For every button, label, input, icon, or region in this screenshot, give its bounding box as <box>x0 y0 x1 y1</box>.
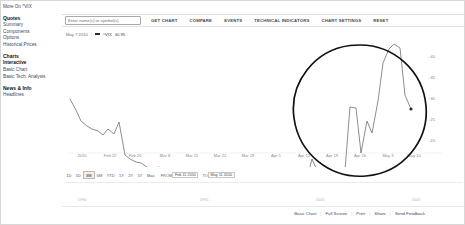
minimap-label-2: 2000 <box>316 197 325 202</box>
compare-button[interactable]: COMPARE <box>183 18 218 23</box>
range-option-max[interactable]: Max <box>145 173 157 178</box>
x-tick-label-8: Apr 12 <box>298 153 310 158</box>
range-option-1y[interactable]: 1Y <box>117 173 126 178</box>
sidebar-item-headlines[interactable]: Headlines <box>3 92 59 99</box>
range-selector: 1D 5D 3M 6M YTD 1Y 2Y 5Y Max FROM Feb 11… <box>62 170 465 180</box>
minimap-label-0: 1990 <box>78 197 87 202</box>
sidebar-item-basic-tech-analysis[interactable]: Basic Tech. Analysis <box>3 74 59 81</box>
minimap-label-1: 1995 <box>200 197 209 202</box>
sidebar-item-components[interactable]: Components <box>3 29 59 36</box>
sidebar-heading-charts: Charts <box>3 53 59 60</box>
sidebar-group-news: News & Info Headlines <box>3 85 59 99</box>
x-tick-label-6: Mar 29 <box>242 153 255 158</box>
quote-divider: | <box>91 32 92 37</box>
sidebar-item-summary[interactable]: Summary <box>3 22 59 29</box>
x-tick-label-1: Feb 22 <box>104 153 117 158</box>
x-tick-label-9: Apr 19 <box>326 153 338 158</box>
x-tick-label-3: Mar 8 <box>160 153 170 158</box>
x-tick-label-7: Apr 5 <box>271 153 281 158</box>
chart-minimap[interactable]: 1990 1995 2000 2005 <box>64 182 463 206</box>
quote-symbol: ^VIX <box>103 32 112 37</box>
more-on-label: More On ^VIX <box>3 4 59 9</box>
sidebar-item-basic-chart[interactable]: Basic Chart <box>3 67 59 74</box>
price-chart[interactable]: 40 35 30 25 20 <box>62 41 465 167</box>
vix-line-series <box>70 44 411 167</box>
sidebar-item-interactive[interactable]: Interactive <box>3 60 59 67</box>
x-tick-label-11: May 3 <box>382 153 393 158</box>
reset-button[interactable]: RESET <box>367 18 394 23</box>
range-option-3m[interactable]: 3M <box>83 171 95 179</box>
y-tick-label-30: 30 <box>430 96 435 101</box>
chart-toolbar: GET CHART COMPARE EVENTS TECHNICAL INDIC… <box>62 14 465 27</box>
footer-link-basic-chart[interactable]: Basic Chart <box>290 211 320 216</box>
sidebar-heading-quotes: Quotes <box>3 15 59 22</box>
quote-value: 40.95 <box>115 32 125 37</box>
sidebar-item-options[interactable]: Options <box>3 35 59 42</box>
sidebar-group-quotes: Quotes Summary Components Options Histor… <box>3 15 59 48</box>
sidebar-heading-news-info: News & Info <box>3 85 59 92</box>
technical-indicators-button[interactable]: TECHNICAL INDICATORS <box>248 18 315 23</box>
x-tick-label-2: Feb 26 <box>129 153 142 158</box>
sidebar-item-historical-prices[interactable]: Historical Prices <box>3 42 59 49</box>
minimap-label-3: 2005 <box>412 197 421 202</box>
x-tick-label-4: Mar 15 <box>186 153 199 158</box>
x-axis: 2010 Feb 22 Feb 26 Mar 8 Mar 15 Mar 22 M… <box>62 153 465 162</box>
from-label: FROM <box>161 173 173 178</box>
footer-link-full-screen[interactable]: Full Screen <box>321 211 351 216</box>
range-option-1d[interactable]: 1D <box>64 173 74 178</box>
x-tick-label-5: Mar 22 <box>214 153 227 158</box>
main-panel: GET CHART COMPARE EVENTS TECHNICAL INDIC… <box>62 0 465 225</box>
chart-svg <box>62 41 465 167</box>
y-tick-label-35: 35 <box>430 75 435 80</box>
chart-settings-button[interactable]: CHART SETTINGS <box>316 18 368 23</box>
footer-link-print[interactable]: Print <box>352 211 369 216</box>
footer-link-share[interactable]: Share <box>370 211 389 216</box>
from-date-input[interactable]: Feb 11 2010 <box>172 172 198 178</box>
range-option-5y[interactable]: 5Y <box>135 173 144 178</box>
range-option-2y[interactable]: 2Y <box>126 173 135 178</box>
x-tick-label-12: May 10 <box>407 153 420 158</box>
sidebar-group-charts: Charts Interactive Basic Chart Basic Tec… <box>3 53 59 80</box>
footer-link-send-feedback[interactable]: Send Feedback <box>391 211 429 216</box>
sidebar: More On ^VIX Quotes Summary Components O… <box>0 0 62 225</box>
last-point-marker <box>409 107 412 110</box>
y-tick-label-25: 25 <box>430 117 435 122</box>
events-button[interactable]: EVENTS <box>218 18 248 23</box>
range-option-ytd[interactable]: YTD <box>105 173 117 178</box>
quote-line: May 7 2010 | ^VIX 40.95 <box>66 29 125 39</box>
quote-date: May 7 2010 <box>66 32 88 37</box>
range-option-6m[interactable]: 6M <box>95 173 105 178</box>
y-tick-label-40: 40 <box>430 54 435 59</box>
y-tick-label-20: 20 <box>430 138 435 143</box>
get-chart-button[interactable]: GET CHART <box>145 18 183 23</box>
x-tick-label-0: 2010 <box>77 153 86 158</box>
symbol-input[interactable] <box>65 16 141 25</box>
x-tick-label-10: Apr 26 <box>354 153 366 158</box>
range-option-5d[interactable]: 5D <box>74 173 84 178</box>
to-date-input[interactable]: May 11 2010 <box>208 172 235 178</box>
chart-footer: Basic Chart | Full Screen | Print | Shar… <box>62 206 465 220</box>
series-color-swatch <box>95 33 100 35</box>
